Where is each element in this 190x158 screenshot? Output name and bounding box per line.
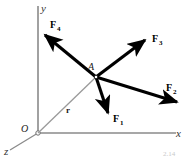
force-label-f4-subscript: 4 <box>57 25 61 33</box>
force-label-f2-base: F <box>166 82 172 93</box>
force-label-f4: F 4 <box>50 19 61 33</box>
force-label-f1-base: F <box>113 113 119 124</box>
y-axis-label: y <box>40 2 46 14</box>
force-label-f2-subscript: 2 <box>173 88 177 96</box>
application-point-label: A <box>87 61 95 72</box>
z-axis-label: z <box>3 145 9 157</box>
caption-fragment: 2.14 <box>163 150 176 158</box>
force-label-f4-base: F <box>50 19 56 30</box>
force-label-f2: F 2 <box>166 82 177 96</box>
x-axis-label: x <box>175 127 181 139</box>
force-label-f3: F 3 <box>152 33 163 47</box>
force-diagram-canvas: y x z O r A F 4 F 3 F 2 <box>0 0 190 158</box>
force-label-f3-base: F <box>152 33 158 44</box>
r-vector-label: r <box>66 105 70 115</box>
force-vector-f3-line <box>96 40 145 77</box>
force-label-f3-subscript: 3 <box>159 39 163 47</box>
application-point-a <box>94 75 98 79</box>
force-label-f1: F 1 <box>113 113 124 127</box>
force-vector-f1-line <box>96 77 108 113</box>
origin-label: O <box>21 123 28 134</box>
force-vector-f2-line <box>96 77 177 102</box>
z-axis-line <box>10 133 38 150</box>
force-label-f1-subscript: 1 <box>120 119 124 127</box>
force-vector-group <box>45 35 177 113</box>
axis-group <box>10 6 176 150</box>
force-diagram-figure: y x z O r A F 4 F 3 F 2 <box>0 0 190 158</box>
